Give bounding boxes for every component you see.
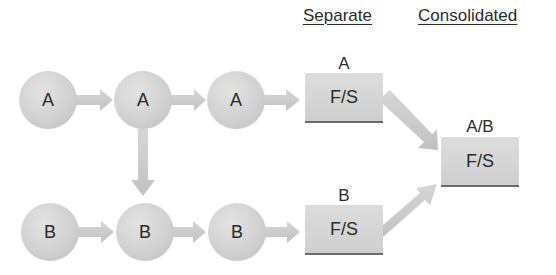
arrow-b3-separate-b-icon (265, 221, 300, 243)
box-text: F/S (330, 219, 358, 240)
header-consolidated: Consolidated (418, 6, 517, 26)
node-label: A (42, 90, 54, 111)
node-a-2: A (114, 71, 172, 129)
arrow-a2-a3-icon (171, 89, 206, 111)
arrow-separate-b-consolidated-icon (383, 184, 437, 237)
header-separate: Separate (303, 6, 372, 26)
node-b-1: B (21, 203, 79, 261)
consolidation-diagram: Separate Consolidated A A A B B B A F/S … (0, 0, 556, 275)
separate-a-label: A (305, 54, 383, 74)
separate-a-fs-box: F/S (305, 73, 383, 123)
consolidated-label: A/B (441, 117, 519, 137)
arrow-a1-a2-icon (76, 89, 113, 111)
arrow-a2-b2-down-icon (131, 129, 155, 196)
arrow-b1-b2-icon (78, 221, 114, 243)
separate-b-label: B (305, 186, 383, 206)
node-a-3: A (207, 71, 265, 129)
node-label: B (231, 222, 243, 243)
node-b-2: B (116, 203, 174, 261)
node-label: A (230, 90, 242, 111)
node-label: B (139, 222, 151, 243)
box-text: F/S (330, 87, 358, 108)
node-a-1: A (19, 71, 77, 129)
arrow-b2-b3-icon (173, 221, 206, 243)
arrow-separate-a-consolidated-icon (383, 90, 438, 150)
separate-b-fs-box: F/S (305, 205, 383, 255)
arrow-a3-separate-a-icon (264, 89, 300, 111)
consolidated-fs-box: F/S (441, 137, 519, 187)
node-b-3: B (208, 203, 266, 261)
node-label: B (44, 222, 56, 243)
node-label: A (137, 90, 149, 111)
box-text: F/S (466, 151, 494, 172)
